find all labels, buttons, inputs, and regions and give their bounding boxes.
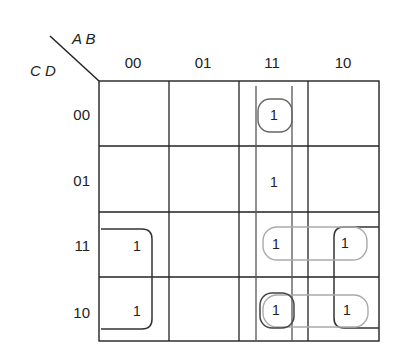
- cell-10-00: 1: [130, 303, 144, 319]
- col-variables-label: A B: [72, 30, 96, 47]
- row-header-10: 10: [60, 304, 90, 321]
- cell-10-10: 1: [340, 302, 354, 318]
- row-header-11: 11: [60, 237, 90, 254]
- row-header-00: 00: [60, 106, 90, 123]
- cell-11-10: 1: [338, 235, 352, 251]
- row-variables-label: C D: [30, 62, 56, 79]
- col-header-01: 01: [183, 54, 223, 71]
- cell-11-00: 1: [130, 238, 144, 254]
- cell-00-11: 1: [267, 107, 281, 123]
- cell-01-11: 1: [267, 174, 281, 190]
- group-rows-1110-col00: [101, 229, 152, 329]
- col-header-11: 11: [252, 54, 292, 71]
- col-header-00: 00: [113, 54, 153, 71]
- cell-11-11: 1: [269, 236, 283, 252]
- col-header-10: 10: [323, 54, 363, 71]
- row-header-01: 01: [60, 172, 90, 189]
- cell-10-11: 1: [269, 302, 283, 318]
